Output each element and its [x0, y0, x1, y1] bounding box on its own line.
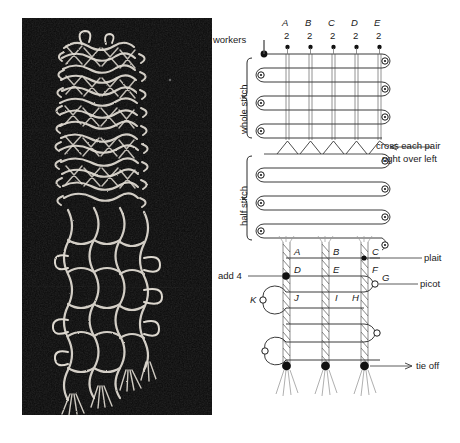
column-count-E: 2 — [376, 30, 381, 41]
pin-marks-half-stitch — [258, 158, 388, 248]
column-label-C: C — [328, 17, 335, 28]
plait-node-C: C — [372, 246, 379, 257]
cross-pair-line1: cross each pair — [376, 140, 440, 151]
leader-lines — [248, 40, 432, 369]
plait-knot — [361, 255, 366, 260]
plait-node-A: A — [294, 246, 300, 257]
column-label-E: E — [374, 17, 380, 28]
column-count-B: 2 — [307, 30, 312, 41]
plait-node-B: B — [333, 246, 339, 257]
column-count-D: 2 — [353, 30, 358, 41]
crossing-row — [264, 141, 388, 154]
add-four-knot — [282, 272, 290, 280]
column-label-D: D — [351, 17, 358, 28]
whole-stitch-label: whole stitch — [238, 84, 249, 134]
plait-node-K: K — [250, 294, 256, 305]
half-stitch-label: half stitch — [238, 186, 249, 226]
lace-photograph — [22, 18, 212, 415]
plait-node-H: H — [352, 292, 359, 303]
column-count-A: 2 — [284, 30, 289, 41]
plait-node-D: D — [294, 264, 301, 275]
tie-off-label: tie off — [416, 360, 439, 371]
picot-label: picot — [420, 278, 440, 289]
net-connectors — [263, 258, 380, 365]
braid-working-diagram: A B C D E 2 2 2 2 2 2 workers whole stit… — [230, 14, 460, 414]
column-count-C: 2 — [330, 30, 335, 41]
plait-node-J: J — [294, 292, 299, 303]
figure-canvas: A B C D E 2 2 2 2 2 2 workers whole stit… — [0, 0, 460, 443]
column-label-A: A — [282, 17, 288, 28]
plait-node-E: E — [333, 264, 339, 275]
plait-node-I: I — [335, 292, 338, 303]
plait-node-G: G — [382, 272, 389, 283]
plait-label: plait — [424, 252, 441, 263]
cross-pair-line2: right over left — [382, 153, 437, 164]
tie-off-group — [276, 362, 376, 396]
diagram-graphic — [230, 14, 460, 414]
plait-node-F: F — [372, 264, 378, 275]
workers-label: 2 workers — [205, 34, 246, 45]
column-label-B: B — [305, 17, 311, 28]
add-four-label: add 4 — [218, 270, 242, 281]
lace-photo-graphic — [22, 18, 212, 415]
